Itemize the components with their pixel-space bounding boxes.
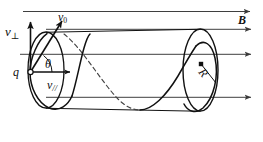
- label-theta-angle: θ: [45, 58, 51, 70]
- helix-back-arc-1: [64, 34, 140, 110]
- cylinder-bottom-edge: [46, 108, 201, 111]
- cylinder-axis-center-dot: [199, 62, 203, 66]
- diagram-canvas: [0, 0, 263, 142]
- cylinder-body: [46, 29, 201, 111]
- label-v-zero: v0: [58, 11, 67, 25]
- physics-diagram-helical-motion: v⊥ v0 q θ v// B R: [0, 0, 263, 142]
- label-charge-q: q: [13, 66, 19, 78]
- helix-front-arc-3: [140, 46, 196, 110]
- helix-back-segments: [64, 34, 140, 110]
- charge-marker: [28, 69, 33, 74]
- helix-front-arc-2: [72, 34, 90, 96]
- label-v-parallel: v//: [47, 79, 57, 93]
- label-v-perpendicular: v⊥: [5, 25, 19, 41]
- label-magnetic-field-B: B: [238, 14, 246, 26]
